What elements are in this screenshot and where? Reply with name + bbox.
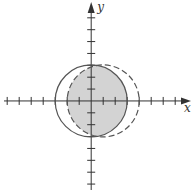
y-axis-arrowhead [88, 2, 95, 13]
y-axis-label: y [96, 0, 104, 14]
diagram-canvas: x y [0, 0, 192, 190]
coordinate-plane: x y [0, 0, 192, 190]
x-axis-label: x [184, 101, 191, 115]
